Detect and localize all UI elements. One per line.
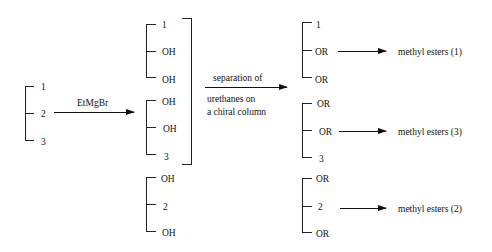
reagent-label: EtMgBr (77, 98, 108, 108)
bond-line (146, 204, 156, 205)
substituent-label: OH (163, 124, 177, 134)
bond-line (146, 231, 156, 232)
bond-line (146, 100, 156, 101)
bond-line (302, 232, 312, 233)
substituent-label: 2 (163, 202, 168, 212)
substituent-label: OH (162, 228, 176, 238)
conversion-arrow (340, 208, 386, 209)
product-result-label: methyl esters (3) (398, 127, 462, 137)
substituent-label: OR (319, 127, 332, 137)
substituent-label: OR (315, 75, 328, 85)
substituent-label: OR (316, 174, 329, 184)
bond-line (146, 154, 156, 155)
bond-line (146, 51, 156, 52)
bond-line (25, 113, 34, 114)
bond-line (302, 130, 312, 131)
bracket-line (191, 18, 192, 165)
bond-line (146, 77, 156, 78)
product-result-label: methyl esters (1) (398, 47, 462, 57)
product-result-label: methyl esters (2) (398, 204, 462, 214)
bond-line (302, 206, 312, 207)
substituent-label: 1 (41, 82, 46, 92)
substituent-label: OH (162, 75, 176, 85)
substituent-label: 3 (319, 154, 324, 164)
substituent-label: OH (162, 97, 176, 107)
bond-line (302, 178, 312, 179)
separation-arrow (205, 87, 287, 88)
substituent-label: 1 (316, 20, 321, 30)
substituent-label: 2 (318, 202, 323, 212)
bond-line (302, 22, 312, 23)
bond-line (302, 103, 312, 104)
bond-line (25, 86, 34, 87)
substituent-label: 3 (41, 137, 46, 147)
substituent-label: OR (315, 47, 328, 57)
separation-label-line3: a chiral column (207, 107, 266, 117)
substituent-label: 3 (164, 152, 169, 162)
bond-line (302, 77, 312, 78)
bond-line (302, 50, 312, 51)
bond-line (302, 157, 312, 158)
bond-line (146, 177, 156, 178)
separation-label-line2: urethanes on (207, 94, 255, 104)
bond-line (146, 24, 156, 25)
bond-line (25, 140, 34, 141)
substituent-label: OH (162, 47, 176, 57)
conversion-arrow (339, 131, 386, 132)
substituent-label: OH (161, 174, 175, 184)
bond-line (146, 127, 156, 128)
substituent-label: OR (316, 229, 329, 239)
substituent-label: 1 (162, 20, 167, 30)
substituent-label: 2 (41, 109, 46, 119)
conversion-arrow (338, 51, 386, 52)
bracket-bottom (182, 164, 192, 165)
reaction-arrow (54, 112, 134, 113)
substituent-label: OR (317, 99, 330, 109)
separation-label-line1: separation of (213, 73, 262, 83)
